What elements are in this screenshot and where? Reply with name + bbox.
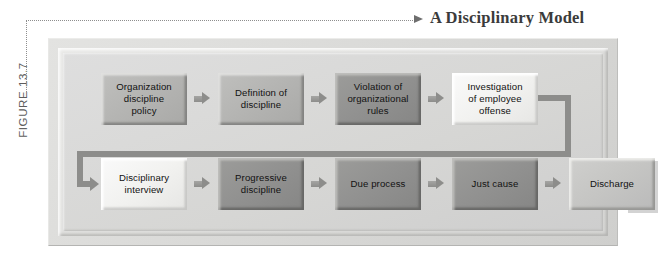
leader-line-vertical [26, 20, 27, 92]
figure-number-label: FIGURE 13.7 [17, 55, 29, 145]
flow-node-just-cause[interactable]: Just cause [452, 158, 538, 210]
leader-arrow-icon [414, 15, 423, 23]
arrow-right-icon [428, 92, 444, 105]
flow-node-organization-discipline-policy[interactable]: Organization discipline policy [101, 73, 187, 125]
arrow-right-icon [428, 177, 444, 190]
leader-line-horizontal [26, 20, 417, 21]
arrow-head [436, 92, 444, 104]
flow-node-label: Violation of organizational rules [338, 81, 418, 118]
flow-node-due-process[interactable]: Due process [335, 158, 421, 210]
arrow-right-icon [545, 177, 561, 190]
flow-node-investigation-of-employee-offense[interactable]: Investigation of employee offense [452, 73, 538, 125]
flow-node-label: Progressive discipline [221, 172, 301, 197]
elbow-connector-segment-right [565, 95, 571, 157]
diagram-panel-frame: Organization discipline policy Definitio… [58, 48, 608, 236]
flow-node-disciplinary-interview[interactable]: Disciplinary interview [101, 158, 187, 210]
diagram-panel: Organization discipline policy Definitio… [48, 38, 618, 246]
arrow-right-icon [194, 92, 210, 105]
flow-node-definition-of-discipline[interactable]: Definition of discipline [218, 73, 304, 125]
figure-title: A Disciplinary Model [430, 8, 584, 28]
arrow-head [436, 177, 444, 189]
flow-node-progressive-discipline[interactable]: Progressive discipline [218, 158, 304, 210]
elbow-connector-segment-bottom [77, 151, 571, 157]
arrow-head [319, 177, 327, 189]
arrow-right-icon [311, 177, 327, 190]
arrow-head [202, 177, 210, 189]
flow-node-label: Due process [338, 178, 418, 190]
flow-node-label: Discharge [572, 178, 652, 190]
arrow-head [202, 92, 210, 104]
arrow-head [553, 177, 561, 189]
flow-node-label: Organization discipline policy [104, 81, 184, 118]
elbow-connector-arrow-icon [90, 177, 99, 191]
elbow-connector-segment-entry [77, 181, 91, 187]
flow-node-label: Investigation of employee offense [455, 81, 535, 118]
flow-node-violation-of-organizational-rules[interactable]: Violation of organizational rules [335, 73, 421, 125]
diagram-panel-inner: Organization discipline policy Definitio… [63, 53, 603, 231]
flow-node-label: Definition of discipline [221, 87, 301, 112]
arrow-right-icon [311, 92, 327, 105]
flow-node-label: Disciplinary interview [104, 172, 184, 197]
flow-node-label: Just cause [455, 178, 535, 190]
arrow-head [319, 92, 327, 104]
flow-node-discharge[interactable]: Discharge [569, 158, 655, 210]
arrow-right-icon [194, 177, 210, 190]
